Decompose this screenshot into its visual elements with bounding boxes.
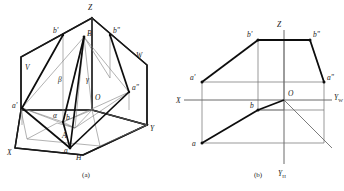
label-axis-YH: YH <box>278 169 286 179</box>
axis-Y-line <box>92 110 147 125</box>
miter-45-line <box>284 100 332 148</box>
figure-root: Z X Y V W H B A b' b" a' a" b a O β γ α <box>0 0 344 191</box>
marker-aw <box>323 81 326 84</box>
marker-av <box>21 107 23 109</box>
panel-b-drawing: Z X YW YH O b' b" a' a" b a <box>172 0 344 191</box>
point-markers <box>201 39 326 145</box>
label-angle-gamma: γ <box>86 75 90 84</box>
label-point-A: A <box>61 131 67 140</box>
coordinate-axes <box>21 18 147 125</box>
marker-bw <box>109 34 111 36</box>
line-awbw <box>110 35 129 92</box>
panel-a-drawing: Z X Y V W H B A b' b" a' a" b a O β γ α <box>0 0 172 191</box>
line-ahbh <box>202 110 258 143</box>
construction-lines <box>202 40 324 143</box>
label-point-bw: b" <box>313 30 321 39</box>
label-angle-alpha: α <box>53 111 58 120</box>
label-point-ah: a <box>192 139 196 148</box>
projector-lines <box>22 35 129 128</box>
segment-AB-and-projections <box>22 35 129 148</box>
label-point-av: a' <box>12 101 18 110</box>
label-axis-YW: YW <box>334 93 343 103</box>
label-plane-H: H <box>75 153 82 162</box>
label-plane-V: V <box>25 63 31 72</box>
marker-bw <box>309 39 312 42</box>
caption-a: (a) <box>66 171 106 179</box>
caption-b: (b) <box>238 171 278 179</box>
label-point-bv: b' <box>247 30 253 39</box>
label-point-ah: a <box>64 146 68 155</box>
marker-bh <box>62 121 64 123</box>
panel-a-pictorial: Z X Y V W H B A b' b" a' a" b a O β γ α <box>0 0 172 191</box>
projections-of-AB <box>202 40 324 143</box>
plane-H <box>15 110 147 155</box>
line-bwaw <box>310 40 324 82</box>
point-markers <box>21 34 130 150</box>
label-point-B: B <box>87 29 92 38</box>
label-origin-O: O <box>95 93 101 102</box>
line-AB <box>70 37 84 148</box>
label-point-av: a' <box>190 73 196 82</box>
marker-bh <box>257 109 260 112</box>
panel-b-orthographic: Z X YW YH O b' b" a' a" b a <box>172 0 344 191</box>
label-origin-O: O <box>288 89 294 98</box>
marker-A <box>69 147 72 150</box>
marker-aw <box>128 91 130 93</box>
label-axis-X: X <box>6 148 12 157</box>
label-point-aw: a" <box>132 83 140 92</box>
label-point-bv: b' <box>53 26 59 35</box>
label-point-aw: a" <box>327 73 335 82</box>
label-plane-W: W <box>136 51 143 60</box>
marker-B <box>83 36 86 39</box>
marker-av <box>201 81 204 84</box>
label-axis-Y: Y <box>150 124 155 133</box>
label-angle-beta: β <box>57 75 62 84</box>
label-point-bh: b <box>66 113 70 122</box>
label-point-bh: b <box>250 101 254 110</box>
line-bh-O <box>258 100 284 110</box>
line-avbv <box>202 40 258 82</box>
marker-bv <box>257 39 260 42</box>
label-axis-X: X <box>175 96 181 105</box>
marker-bv <box>62 34 64 36</box>
label-point-bw: b" <box>113 26 121 35</box>
label-axis-Z: Z <box>277 20 282 29</box>
h-plane-construction-lines <box>21 110 147 146</box>
label-axis-Z: Z <box>88 3 93 12</box>
link-B-bh <box>63 37 84 122</box>
marker-ah <box>201 142 204 145</box>
